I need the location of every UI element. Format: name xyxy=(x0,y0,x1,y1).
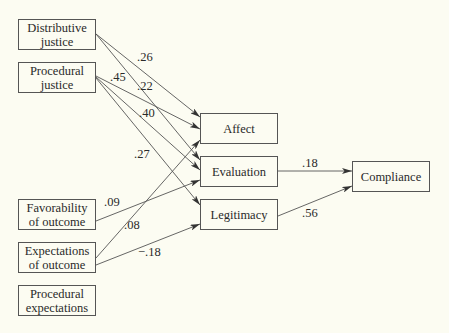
node-affect: Affect xyxy=(200,113,278,144)
node-label: Favorability of outcome xyxy=(26,201,87,229)
coef-expectations-affect: .08 xyxy=(124,219,140,232)
node-label: Expectations of outcome xyxy=(25,244,90,272)
node-label: Affect xyxy=(223,122,255,136)
node-label: Compliance xyxy=(361,170,421,184)
node-expectations-of-outcome: Expectations of outcome xyxy=(18,242,96,273)
coef-evaluation-compliance: .18 xyxy=(302,157,318,170)
node-label: Procedural justice xyxy=(30,64,84,92)
coef-legitimacy-compliance: .56 xyxy=(302,207,318,220)
node-label: Legitimacy xyxy=(211,208,268,222)
node-label: Distributive justice xyxy=(27,21,87,49)
node-procedural-justice: Procedural justice xyxy=(18,62,96,93)
node-evaluation: Evaluation xyxy=(200,156,278,187)
coef-expectations-legitimacy: −.18 xyxy=(138,246,161,259)
coef-distributive-affect: .26 xyxy=(137,51,153,64)
coef-distributive-evaluation: .22 xyxy=(137,80,153,93)
node-label: Procedural expectations xyxy=(26,287,88,315)
coef-procedural-legitimacy: .27 xyxy=(134,148,150,161)
coef-procedural-evaluation: .40 xyxy=(139,107,155,120)
node-procedural-expectations: Procedural expectations xyxy=(18,285,96,316)
node-label: Evaluation xyxy=(212,165,266,179)
node-distributive-justice: Distributive justice xyxy=(18,19,96,50)
node-legitimacy: Legitimacy xyxy=(200,199,278,230)
node-favorability-of-outcome: Favorability of outcome xyxy=(18,199,96,230)
coef-favorability-evaluation: .09 xyxy=(104,196,120,209)
coef-procedural-affect: .45 xyxy=(110,71,126,84)
node-compliance: Compliance xyxy=(352,161,430,192)
